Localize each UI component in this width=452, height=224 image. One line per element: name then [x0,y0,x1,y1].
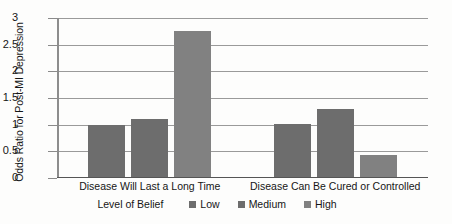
y-axis-tick-label: 1.5 [0,91,18,103]
plot-area [57,18,428,178]
legend-title: Level of Belief [97,198,163,210]
legend-swatch-high-icon [304,201,311,208]
y-axis-tick-label: 3 [0,11,18,23]
y-axis-tick-label: 1 [0,118,18,130]
y-axis-tick-mark [48,178,57,179]
y-axis-tick-mark [48,45,57,46]
bar-high-group1 [174,31,211,177]
y-axis-tick-mark [48,125,57,126]
legend-label: Medium [249,198,286,210]
y-axis-tick-mark [48,71,57,72]
y-axis-tick-mark [48,18,57,19]
bar-medium-group1 [131,119,168,177]
bar-low-group2 [274,124,311,177]
legend-label: Low [200,198,219,210]
legend: Level of Belief LowMediumHigh [0,198,452,210]
y-axis-tick-label: 2 [0,64,18,76]
gridline [57,98,428,99]
legend-swatch-low-icon [189,201,196,208]
bar-medium-group2 [317,109,354,177]
legend-label: High [315,198,337,210]
legend-entry-low[interactable]: Low [189,198,219,210]
y-axis-tick-label: 0.5 [0,144,18,156]
y-axis-tick-mark [48,98,57,99]
x-axis-category-label: Disease Will Last a Long Time [57,180,243,192]
gridline [57,71,428,72]
gridline [57,18,428,19]
bar-low-group1 [88,125,125,177]
y-axis-tick-mark [48,151,57,152]
legend-entry-high[interactable]: High [304,198,337,210]
legend-entry-medium[interactable]: Medium [238,198,286,210]
y-axis-tick-label: 0 [0,171,18,183]
gridline [57,45,428,46]
bar-high-group2 [360,155,397,177]
y-axis-line [57,18,59,178]
x-axis-category-label: Disease Can Be Cured or Controlled [243,180,429,192]
bar-chart: Odds Ratio for Post-MI Depression 00.511… [0,0,452,224]
y-axis-tick-label: 2.5 [0,38,18,50]
legend-swatch-medium-icon [238,201,245,208]
